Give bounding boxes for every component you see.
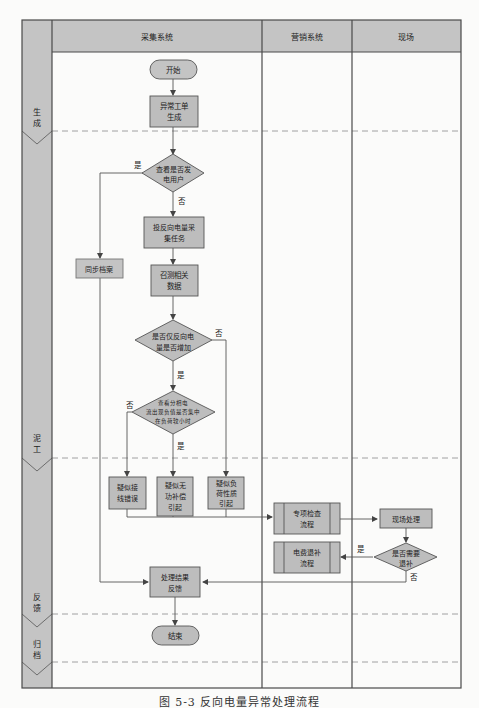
decision-phase-current-line2: 流出现负值是否集中 (146, 408, 200, 416)
lane-label-onsite: 现场 (398, 33, 414, 42)
phase-label-feedback: 反 (33, 592, 41, 602)
decision-only-reverse-line1: 是否仅反向电 (152, 332, 194, 341)
node-refund-flow (274, 542, 340, 573)
figure-caption: 图 5-3 反向电量异常处理流程 (0, 693, 479, 708)
decision-check-user-line2: 电用户 (163, 175, 184, 184)
decision-need-refund-line1: 是否需要 (392, 550, 420, 558)
phase-label-archive: 归 (33, 639, 41, 649)
decision-need-refund-line2: 退补 (399, 559, 413, 568)
node-reactive-line3: 引起 (168, 503, 182, 512)
end-label: 结束 (168, 631, 183, 641)
edge-label-check-user-yes: 是 (134, 161, 142, 170)
node-wiring-error (109, 477, 146, 509)
node-special-check-line2: 流程 (300, 520, 314, 529)
node-collect-task-line2: 集任务 (164, 234, 185, 243)
node-special-check (274, 503, 340, 534)
phase-label-process-2: 工 (33, 445, 41, 454)
node-wiring-error-line2: 线错误 (117, 494, 138, 503)
decision-phase-current-line3: 在负荷较小时 (155, 417, 191, 425)
node-reactive-line1: 疑似无 (165, 481, 186, 490)
decision-phase-current-line1: 查看分相电 (158, 399, 188, 407)
node-load-nature-line2: 荷性质 (216, 489, 237, 498)
frame (22, 20, 461, 688)
edge-label-need-refund-no: 否 (410, 573, 418, 582)
edge-label-check-user-no: 否 (178, 197, 186, 206)
node-wiring-error-line1: 疑似接 (117, 483, 138, 492)
edge-label-phase-current-yes: 是 (177, 442, 185, 451)
node-generate-workorder (150, 96, 198, 127)
phase-label-generate-2: 成 (33, 118, 41, 128)
node-call-data-line2: 数据 (167, 281, 182, 291)
node-reactive-line2: 功补偿 (165, 492, 186, 501)
connectors (100, 79, 406, 625)
node-feedback-line1: 处理结果 (161, 573, 189, 582)
node-call-data-line1: 召测相关 (160, 270, 189, 280)
phase-label-generate: 生 (33, 107, 41, 117)
phase-label-feedback-2: 馈 (33, 603, 41, 613)
edge-label-phase-current-no: 否 (126, 401, 134, 410)
node-generate-line2: 生成 (167, 112, 182, 122)
node-generate-line1: 异常工单 (160, 101, 189, 111)
node-load-nature-line3: 引起 (219, 499, 233, 508)
start-label: 开始 (166, 65, 181, 75)
node-collect-task-line1: 投反向电量采 (153, 223, 195, 232)
phase-label-process: 泥 (33, 434, 41, 443)
edge-label-only-reverse-no: 否 (215, 329, 223, 338)
node-call-data (151, 265, 198, 296)
node-refund-flow-line2: 流程 (300, 559, 314, 568)
decision-only-reverse-line2: 量是否增加 (156, 343, 191, 352)
edge-label-need-refund-yes: 是 (357, 545, 365, 554)
lane-label-marketing: 营销系统 (291, 32, 323, 42)
edge-label-only-reverse-yes: 是 (177, 371, 185, 380)
node-load-nature-line1: 疑似负 (216, 479, 237, 488)
decision-check-user-line1: 查看是否发 (156, 165, 191, 174)
node-collect-task (144, 217, 204, 248)
node-feedback-line2: 反馈 (168, 584, 182, 593)
phase-label-archive-2: 档 (33, 650, 41, 660)
lane-label-collection: 采集系统 (141, 32, 173, 42)
node-special-check-line1: 专项检查 (293, 509, 321, 518)
node-sync-archive-label: 同步档案 (85, 265, 113, 274)
swimlane-flowchart: 采集系统 营销系统 现场 生 成 泥 工 反 馈 归 档 (0, 0, 479, 708)
node-onsite-label: 现场处理 (392, 515, 420, 524)
node-refund-flow-line1: 电费退补 (293, 548, 321, 557)
